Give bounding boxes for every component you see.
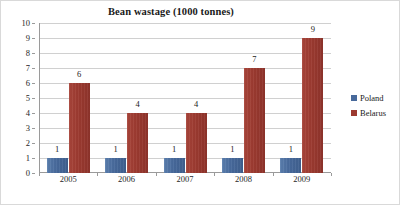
legend-item-belarus[interactable]: Belarus [351, 109, 386, 118]
square-swatch-blue-icon [351, 95, 357, 101]
bar-group-2005: 16 [39, 23, 97, 173]
y-axis-tick-mark [32, 68, 35, 69]
y-axis-tick-mark [32, 83, 35, 84]
square-swatch-red-icon [351, 110, 357, 116]
x-axis-tick-label-2008: 2008 [214, 175, 272, 184]
bar-belarus-2005[interactable]: 6 [69, 83, 90, 173]
y-axis-tick-mark [32, 158, 35, 159]
bar-value-label: 7 [252, 55, 256, 64]
bar-poland-2006[interactable]: 1 [105, 158, 126, 173]
bars-layer: 1614141719 [39, 23, 331, 173]
x-axis-tick-label-2005: 2005 [39, 175, 97, 184]
bar-value-label: 1 [55, 145, 59, 154]
bar-belarus-2007[interactable]: 4 [186, 113, 207, 173]
y-axis-tick-mark [32, 173, 35, 174]
x-axis-tick-label-2006: 2006 [97, 175, 155, 184]
y-axis-tick-label: 7 [26, 64, 30, 73]
y-axis-tick-mark [32, 128, 35, 129]
y-axis-tick-label: 0 [26, 169, 30, 178]
y-axis-tick-mark [32, 38, 35, 39]
bean-wastage-bar-chart: Bean wastage (1000 tonnes) 012345678910 … [0, 0, 400, 205]
y-axis-tick-mark [32, 53, 35, 54]
x-axis-tick-label-2007: 2007 [156, 175, 214, 184]
bar-poland-2005[interactable]: 1 [47, 158, 68, 173]
bar-value-label: 1 [230, 145, 234, 154]
bar-value-label: 9 [311, 25, 315, 34]
y-axis-tick-mark [32, 98, 35, 99]
bar-belarus-2009[interactable]: 9 [302, 38, 323, 173]
bar-value-label: 4 [194, 100, 198, 109]
bar-group-2007: 14 [156, 23, 214, 173]
bar-value-label: 1 [289, 145, 293, 154]
y-axis-tick-label: 3 [26, 124, 30, 133]
bar-belarus-2006[interactable]: 4 [127, 113, 148, 173]
x-axis-tick-label-2009: 2009 [273, 175, 331, 184]
bar-group-2009: 19 [273, 23, 331, 173]
y-axis-tick-label: 8 [26, 49, 30, 58]
y-axis-tick-mark [32, 143, 35, 144]
x-axis: 20052006200720082009 [39, 175, 331, 184]
legend-label: Belarus [360, 109, 386, 118]
bar-poland-2008[interactable]: 1 [222, 158, 243, 173]
y-axis-tick-label: 10 [22, 19, 31, 28]
y-axis-tick-label: 9 [26, 34, 30, 43]
bar-group-2008: 17 [214, 23, 272, 173]
bar-group-2006: 14 [97, 23, 155, 173]
chart-title: Bean wastage (1000 tonnes) [1, 6, 341, 17]
y-axis-tick-mark [32, 113, 35, 114]
bar-value-label: 4 [135, 100, 139, 109]
y-axis-tick-label: 5 [26, 94, 30, 103]
y-axis-tick-mark [32, 23, 35, 24]
chart-legend: PolandBelarus [351, 94, 386, 117]
y-axis-tick-label: 2 [26, 139, 30, 148]
x-axis-tick-mark [331, 173, 332, 176]
y-axis-tick-label: 4 [26, 109, 30, 118]
bar-value-label: 6 [77, 70, 81, 79]
bar-value-label: 1 [172, 145, 176, 154]
bar-poland-2009[interactable]: 1 [280, 158, 301, 173]
y-axis: 012345678910 [1, 23, 35, 173]
y-axis-tick-label: 6 [26, 79, 30, 88]
bar-poland-2007[interactable]: 1 [164, 158, 185, 173]
legend-label: Poland [360, 94, 384, 103]
legend-item-poland[interactable]: Poland [351, 94, 386, 103]
bar-belarus-2008[interactable]: 7 [244, 68, 265, 173]
y-axis-tick-label: 1 [26, 154, 30, 163]
bar-value-label: 1 [113, 145, 117, 154]
